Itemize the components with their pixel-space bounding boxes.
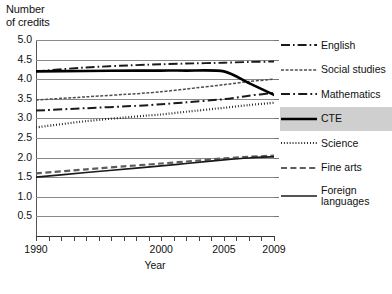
y-tick-label: 2.0 xyxy=(0,151,32,163)
x-tick xyxy=(199,236,200,241)
y-tick-stub xyxy=(274,118,279,119)
x-tick xyxy=(99,236,100,241)
legend-item-foreign-languages[interactable]: Foreign languages xyxy=(280,180,392,212)
y-tick-label: 3.0 xyxy=(0,111,32,123)
y-tick-label: 1.5 xyxy=(0,170,32,182)
x-axis-title: Year xyxy=(144,259,165,271)
x-tick xyxy=(249,236,250,241)
x-tick-label: 1990 xyxy=(24,243,47,255)
series-line-foreign-languages xyxy=(36,157,274,177)
y-tick-stub xyxy=(274,60,279,61)
legend-item-label: English xyxy=(321,40,355,52)
x-tick xyxy=(261,236,262,241)
series-line-mathematics xyxy=(36,93,274,111)
y-tick-stub xyxy=(274,216,279,217)
legend: EnglishSocial studiesMathematicsCTEScien… xyxy=(280,33,392,212)
x-tick xyxy=(49,236,50,241)
x-tick xyxy=(36,236,37,241)
series-line-science xyxy=(36,103,274,128)
x-tick xyxy=(86,236,87,241)
y-tick-label: 3.5 xyxy=(0,92,32,104)
legend-item-label: Social studies xyxy=(321,64,386,76)
x-tick xyxy=(224,236,225,241)
legend-line-sample xyxy=(280,88,318,100)
chart-figure: Number of credits 5.04.54.03.53.02.52.01… xyxy=(0,0,392,294)
x-tick xyxy=(124,236,125,241)
y-tick-stub xyxy=(274,197,279,198)
legend-item-label: Foreign languages xyxy=(321,185,369,208)
y-tick-label: 2.5 xyxy=(0,131,32,143)
y-tick-label: 4.0 xyxy=(0,72,32,84)
y-tick-stub xyxy=(274,177,279,178)
x-axis-line xyxy=(36,236,274,237)
legend-line-sample xyxy=(280,113,318,125)
legend-line-sample xyxy=(280,137,318,149)
x-tick-label: 2009 xyxy=(262,243,285,255)
y-tick-stub xyxy=(274,138,279,139)
legend-line-sample xyxy=(280,162,318,174)
y-tick-stub xyxy=(274,79,279,80)
y-tick-label: 4.5 xyxy=(0,53,32,65)
x-tick xyxy=(149,236,150,241)
y-tick-label: 5.0 xyxy=(0,33,32,45)
x-tick xyxy=(186,236,187,241)
y-tick-stub xyxy=(274,40,279,41)
y-tick-stub xyxy=(274,99,279,100)
data-lines xyxy=(36,40,274,236)
x-tick xyxy=(236,236,237,241)
x-tick xyxy=(111,236,112,241)
y-tick-label: 1.0 xyxy=(0,190,32,202)
legend-line-sample xyxy=(280,190,318,202)
legend-item-label: CTE xyxy=(321,113,342,125)
y-axis-title: Number of credits xyxy=(6,3,50,29)
x-tick-label: 2005 xyxy=(212,243,235,255)
x-tick xyxy=(274,236,275,241)
legend-item-fine-arts[interactable]: Fine arts xyxy=(280,156,392,181)
legend-item-label: Fine arts xyxy=(321,162,362,174)
x-tick xyxy=(136,236,137,241)
y-tick-stub xyxy=(274,158,279,159)
legend-item-cte[interactable]: CTE xyxy=(280,107,392,132)
x-tick xyxy=(161,236,162,241)
legend-line-sample xyxy=(280,64,318,76)
x-tick xyxy=(61,236,62,241)
y-tick-label: 0.5 xyxy=(0,209,32,221)
legend-item-science[interactable]: Science xyxy=(280,131,392,156)
legend-item-label: Science xyxy=(321,138,358,150)
legend-item-english[interactable]: English xyxy=(280,33,392,58)
x-tick-label: 2000 xyxy=(150,243,173,255)
legend-item-mathematics[interactable]: Mathematics xyxy=(280,82,392,107)
legend-line-sample xyxy=(280,39,318,51)
legend-item-social-studies[interactable]: Social studies xyxy=(280,58,392,83)
legend-item-label: Mathematics xyxy=(321,89,381,101)
x-tick xyxy=(211,236,212,241)
x-tick xyxy=(74,236,75,241)
x-tick xyxy=(174,236,175,241)
